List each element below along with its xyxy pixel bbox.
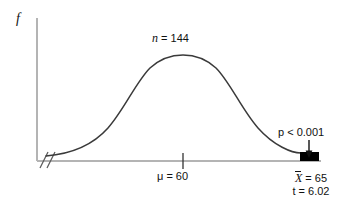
sample-size-symbol: n — [152, 31, 158, 45]
sample-mean-value: = 65 — [305, 172, 327, 184]
statistics-figure: f n = 144 μ = 60 p < 0.001 X = 65 t = 6.… — [0, 0, 344, 209]
sample-size-label: n = 144 — [152, 32, 189, 45]
normal-curve — [46, 55, 301, 156]
y-axis-label: f — [16, 12, 20, 25]
sample-mean-symbol: X — [295, 172, 302, 185]
right-tail-stats: X = 65 t = 6.02 — [280, 172, 342, 198]
t-statistic-label: t = 6.02 — [280, 185, 342, 198]
sample-size-value: = 144 — [161, 32, 189, 44]
population-mean-label: μ = 60 — [157, 170, 188, 183]
sample-mean-label: X = 65 — [280, 172, 342, 185]
p-value-label: p < 0.001 — [278, 126, 324, 139]
